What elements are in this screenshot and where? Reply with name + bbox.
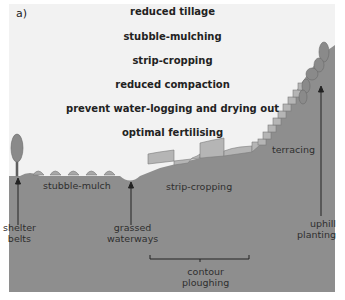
label-uphill-planting: uphill planting <box>297 218 336 240</box>
measure-optimal-fertilising: optimal fertilising <box>0 127 345 138</box>
measure-stubble-mulching: stubble-mulching <box>0 31 345 42</box>
measure-reduced-compaction: reduced compaction <box>0 79 345 90</box>
label-shelter-belts: shelter belts <box>3 222 36 244</box>
label-contour-ploughing: contour ploughing <box>182 266 229 288</box>
label-grassed-waterways: grassed waterways <box>107 222 158 244</box>
tree-icon <box>11 134 23 176</box>
label-stubble-mulch: stubble-mulch <box>43 180 111 191</box>
label-terracing: terracing <box>272 144 315 155</box>
label-strip-cropping: strip-cropping <box>166 181 232 192</box>
measure-strip-cropping: strip-cropping <box>0 55 345 66</box>
measure-reduced-tillage: reduced tillage <box>0 6 345 17</box>
stubble-mulch-mounds <box>33 171 115 175</box>
measure-water-logging: prevent water-logging and drying out <box>0 103 345 114</box>
